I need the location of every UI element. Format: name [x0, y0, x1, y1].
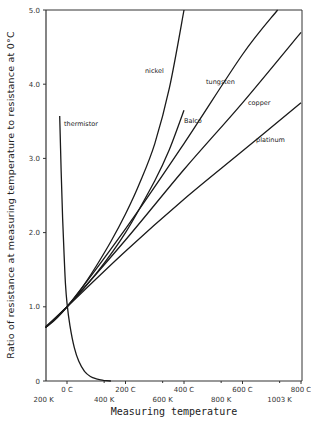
y-tick-label: 0 — [36, 378, 40, 386]
y-tick-label: 1.0 — [29, 303, 40, 311]
curve-label-platinum: platinum — [256, 136, 285, 144]
x-axis-ticks: 0 C200 C400 C600 C800 C200 K400 K600 K80… — [34, 381, 311, 404]
y-axis-title: Ratio of resistance at measuring tempera… — [5, 31, 16, 359]
y-tick-label: 3.0 — [29, 155, 40, 163]
x-tick-label-kelvin: 400 K — [94, 396, 115, 404]
x-tick-label-kelvin: 800 K — [211, 396, 232, 404]
x-tick-label-kelvin: 600 K — [153, 396, 174, 404]
x-tick-label-celsius: 800 C — [291, 386, 311, 394]
curve-label-thermistor: thermistor — [64, 120, 98, 128]
x-tick-label-celsius: 200 C — [115, 386, 136, 394]
resistance-ratio-chart: 01.02.03.04.05.0 0 C200 C400 C600 C800 C… — [0, 0, 311, 428]
curve-tungsten — [46, 10, 278, 328]
curve-thermistor — [60, 116, 111, 381]
curve-nickel — [46, 10, 184, 328]
curves — [46, 10, 301, 381]
y-tick-label: 4.0 — [29, 81, 40, 89]
x-tick-label-kelvin: 200 K — [34, 396, 55, 404]
x-tick-label-kelvin: 1003 K — [267, 396, 292, 404]
x-axis-title: Measuring temperature — [111, 406, 237, 417]
x-tick-label-celsius: 600 C — [232, 386, 253, 394]
curve-label-tungsten: tungsten — [206, 78, 235, 86]
x-tick-label-celsius: 0 C — [61, 386, 73, 394]
curve-label-copper: copper — [248, 99, 271, 107]
curve-copper — [46, 32, 301, 327]
y-tick-label: 5.0 — [29, 7, 40, 15]
x-tick-label-celsius: 400 C — [174, 386, 195, 394]
y-tick-label: 2.0 — [29, 229, 40, 237]
curve-labels: nickelBalcotungstencopperplatinumthermis… — [64, 67, 285, 144]
y-axis-ticks: 01.02.03.04.05.0 — [29, 7, 46, 386]
curve-label-nickel: nickel — [145, 67, 164, 75]
curve-label-balco: Balco — [184, 117, 202, 125]
